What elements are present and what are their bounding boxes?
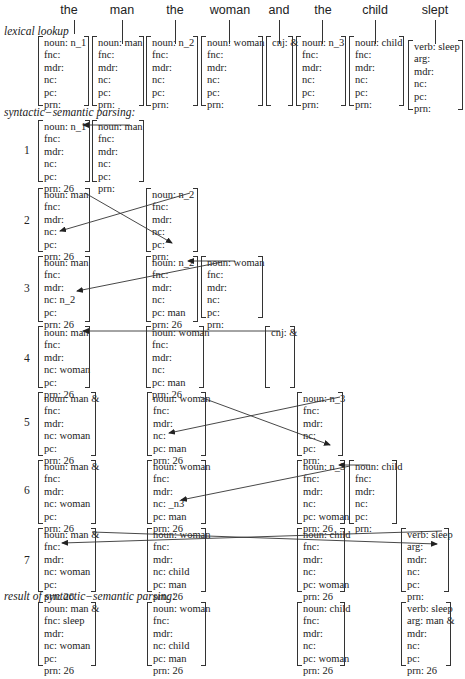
arrow-overlay (0, 0, 465, 679)
